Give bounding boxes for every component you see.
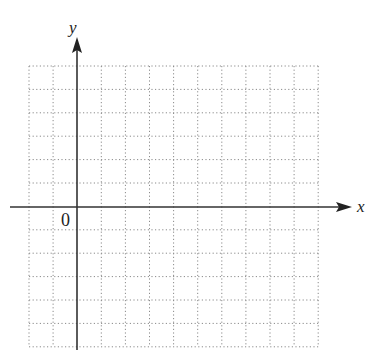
y-axis-label: y (67, 18, 77, 37)
origin-label: 0 (61, 210, 70, 230)
coordinate-plane: x y 0 (0, 0, 375, 356)
x-axis-label: x (356, 197, 365, 216)
